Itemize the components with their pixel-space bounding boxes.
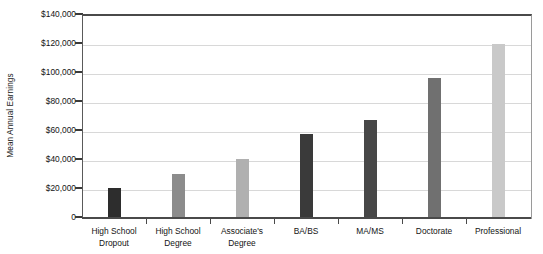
y-axis-title-text: Mean Annual Earnings	[6, 73, 15, 157]
x-axis-tick-marks	[82, 219, 530, 225]
y-axis-title: Mean Annual Earnings	[0, 0, 20, 230]
x-axis-category-label: Associate's Degree	[221, 226, 263, 249]
bars-layer	[82, 14, 530, 217]
x-axis-tick-mark	[338, 219, 339, 224]
x-axis-category-label: Doctorate	[416, 226, 452, 238]
y-axis-tick-label: $120,000	[41, 38, 76, 48]
bar	[428, 78, 441, 217]
x-axis-tick-mark	[274, 219, 275, 224]
bar	[108, 188, 121, 217]
y-axis-tick-label: $60,000	[46, 125, 76, 135]
x-axis-category-label: Professional	[475, 226, 521, 238]
x-axis-category-label: High School Dropout	[91, 226, 136, 249]
bar	[364, 120, 377, 217]
x-axis-tick-mark	[466, 219, 467, 224]
bar-chart-figure: Mean Annual Earnings 0$20,000$40,000$60,…	[0, 0, 543, 254]
y-axis-tick-label: $140,000	[41, 9, 76, 19]
x-axis-category-labels: High School DropoutHigh School DegreeAss…	[82, 226, 530, 254]
x-axis-category-label: BA/BS	[294, 226, 319, 238]
y-axis-tick-labels: 0$20,000$40,000$60,000$80,000$100,000$12…	[18, 0, 80, 230]
bar	[300, 134, 313, 217]
bar	[236, 159, 249, 217]
y-axis-tick-label: $80,000	[46, 96, 76, 106]
y-axis-tick-label: $40,000	[46, 154, 76, 164]
x-axis-category-label: MA/MS	[356, 226, 383, 238]
y-axis-tick-label: $20,000	[46, 183, 76, 193]
bar	[492, 44, 505, 217]
x-axis-tick-mark	[210, 219, 211, 224]
x-axis-category-label: High School Degree	[155, 226, 200, 249]
x-axis-tick-mark	[402, 219, 403, 224]
bar	[172, 174, 185, 218]
x-axis-tick-mark	[146, 219, 147, 224]
y-axis-tick-label: $100,000	[41, 67, 76, 77]
